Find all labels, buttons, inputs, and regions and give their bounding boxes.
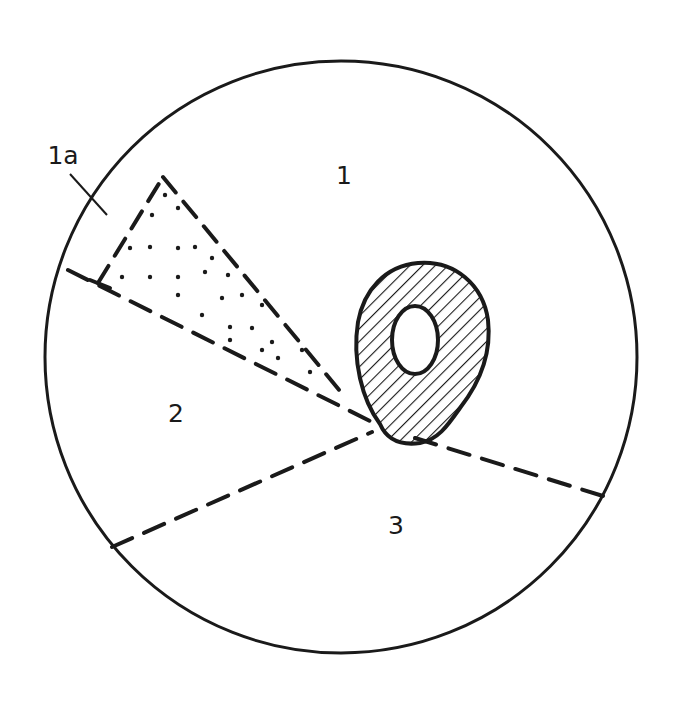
outer-boundary-circle — [45, 61, 637, 653]
hatched-ring-body — [356, 263, 488, 444]
stipple-dot — [260, 348, 264, 352]
stipple-dot — [200, 313, 204, 317]
stipple-dot — [228, 325, 232, 329]
stipple-dot — [226, 273, 230, 277]
stipple-dot — [176, 246, 180, 250]
stipple-dot — [176, 206, 180, 210]
label-region-3: 3 — [388, 513, 404, 538]
stipple-dot — [240, 293, 244, 297]
boundary-upper-left — [68, 270, 378, 425]
stipple-dot — [148, 275, 152, 279]
stipple-dot — [163, 193, 167, 197]
diagram-canvas: 1 1a 2 3 — [0, 0, 676, 725]
label-region-1a: 1a — [47, 143, 78, 168]
stipple-dot — [193, 245, 197, 249]
stipple-dot — [203, 270, 207, 274]
stipple-dot — [176, 275, 180, 279]
label-region-2: 2 — [168, 401, 184, 426]
stipple-dot — [228, 338, 232, 342]
stipple-dot — [276, 356, 280, 360]
stipple-dot — [120, 275, 124, 279]
stipple-dot — [260, 303, 264, 307]
stipple-dot — [150, 213, 154, 217]
label-region-1: 1 — [336, 163, 352, 188]
dashed-boundary-lines — [68, 270, 603, 547]
ring-inner-hole — [392, 306, 438, 374]
wedge-left-edge — [98, 177, 163, 283]
stipple-dot — [176, 293, 180, 297]
stipple-dot — [308, 370, 312, 374]
boundary-lower-left — [112, 432, 372, 547]
stipple-dot — [300, 348, 304, 352]
stipple-dot — [148, 245, 152, 249]
stipple-dot — [220, 296, 224, 300]
stippled-wedge-region-1a — [90, 177, 345, 397]
section-diagram-svg — [0, 0, 676, 725]
stipple-dot — [128, 246, 132, 250]
stipple-dot — [250, 326, 254, 330]
stipple-dot — [270, 340, 274, 344]
label-1a-leader-line — [70, 174, 107, 215]
boundary-right — [415, 438, 603, 496]
stipple-dot — [210, 256, 214, 260]
